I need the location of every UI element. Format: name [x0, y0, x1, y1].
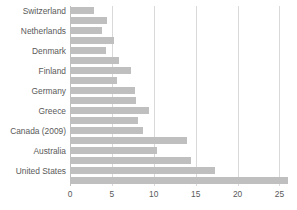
- bar[interactable]: [70, 17, 107, 23]
- bar[interactable]: [70, 147, 157, 153]
- bar[interactable]: [70, 7, 94, 13]
- bar[interactable]: [70, 27, 102, 33]
- x-axis-label-group: 0510152025: [0, 189, 297, 205]
- bar-row: [70, 116, 292, 126]
- y-axis-tick-label: Denmark: [0, 47, 66, 56]
- y-axis-tick-label: Netherlands: [0, 27, 66, 36]
- bar[interactable]: [70, 37, 114, 43]
- x-axis-tick-label: 10: [139, 189, 169, 200]
- x-axis-tick-label: 25: [264, 189, 294, 200]
- x-axis-tick-label: 15: [181, 189, 211, 200]
- bar-row: [70, 136, 292, 146]
- bar-row: [70, 96, 292, 106]
- bar[interactable]: [70, 157, 191, 163]
- bar-chart: SwitzerlandNetherlandsDenmarkFinlandGerm…: [0, 0, 297, 210]
- bar-row: [70, 126, 292, 136]
- bar-row: [70, 106, 292, 116]
- y-axis-tick-label: United States: [0, 167, 66, 176]
- x-axis-tick-label: 5: [97, 189, 127, 200]
- bar[interactable]: [70, 97, 136, 103]
- bar-group: [70, 6, 292, 186]
- y-axis-tick-label: Australia: [0, 147, 66, 156]
- bar-row: [70, 46, 292, 56]
- bar[interactable]: [70, 127, 143, 133]
- bar[interactable]: [70, 47, 106, 53]
- y-axis-tick-label: Finland: [0, 67, 66, 76]
- bar[interactable]: [70, 137, 187, 143]
- bar-row: [70, 66, 292, 76]
- x-axis-tick-label: 20: [223, 189, 253, 200]
- bar-row: [70, 86, 292, 96]
- bar[interactable]: [70, 117, 138, 123]
- bar-row: [70, 76, 292, 86]
- bar-row: [70, 6, 292, 16]
- bar-row: [70, 36, 292, 46]
- y-axis-tick-label: Greece: [0, 107, 66, 116]
- y-axis-tick-label: Canada (2009): [0, 127, 66, 136]
- bar-row: [70, 26, 292, 36]
- bar[interactable]: [70, 87, 135, 93]
- y-axis-label-group: SwitzerlandNetherlandsDenmarkFinlandGerm…: [0, 6, 66, 186]
- x-axis-tick-label: 0: [55, 189, 85, 200]
- bar-row: [70, 156, 292, 166]
- y-axis-tick-label: Germany: [0, 87, 66, 96]
- bar[interactable]: [70, 177, 288, 183]
- bar-row: [70, 146, 292, 156]
- bar[interactable]: [70, 77, 117, 83]
- bar-row: [70, 166, 292, 176]
- y-axis-tick-label: Switzerland: [0, 7, 66, 16]
- plot-area: [70, 6, 292, 186]
- bar[interactable]: [70, 67, 131, 73]
- bar[interactable]: [70, 167, 215, 173]
- bar-row: [70, 16, 292, 26]
- bar-row: [70, 176, 292, 186]
- bar[interactable]: [70, 107, 149, 113]
- bar-row: [70, 56, 292, 66]
- bar[interactable]: [70, 57, 119, 63]
